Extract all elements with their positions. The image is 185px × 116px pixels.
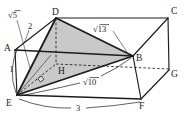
vertex-label-g: G: [171, 69, 178, 79]
vertex-label-d: D: [52, 7, 59, 17]
measure-arc-ef-right: [86, 102, 140, 108]
geometry-figure: A B C D E F G H 1 2 3 √5 √10 √13: [0, 0, 185, 116]
cuboid-diagram: A B C D E F G H 1 2 3 √5 √10 √13: [0, 0, 185, 116]
vertex-label-f: F: [139, 101, 144, 111]
measure-label-eb: √10: [83, 77, 96, 87]
measure-arc-ef-left: [19, 99, 71, 108]
edge-ae: [15, 50, 17, 95]
measure-label-db: √13: [93, 24, 106, 34]
edge-cb: [133, 18, 168, 56]
edge-cg: [168, 18, 169, 70]
shaded-triangle-deb: [17, 18, 133, 95]
measure-label-ae: 1: [10, 64, 14, 74]
measure-label-ad: 2: [28, 21, 32, 31]
measure-label-ed: √5: [8, 10, 17, 20]
edge-gf: [141, 70, 169, 99]
vertex-label-a: A: [4, 43, 11, 53]
vertex-label-c: C: [171, 6, 177, 16]
vertex-label-h: H: [58, 66, 65, 76]
edge-ef: [17, 95, 141, 99]
measure-label-ef: 3: [76, 103, 80, 113]
vertex-label-e: E: [6, 98, 12, 108]
vertex-label-b: B: [136, 53, 142, 63]
